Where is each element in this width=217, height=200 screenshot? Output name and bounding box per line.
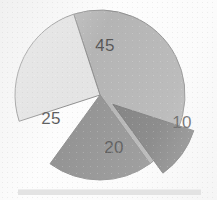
footer-divider-bar [18, 189, 201, 195]
pie-chart: 45 25 20 10 [0, 0, 217, 200]
pie-label-20: 20 [104, 138, 123, 157]
pie-label-10: 10 [172, 113, 191, 132]
pie-chart-screenshot: 45 25 20 10 [0, 0, 217, 200]
pie-label-25: 25 [41, 109, 60, 128]
pie-label-45: 45 [95, 36, 114, 55]
